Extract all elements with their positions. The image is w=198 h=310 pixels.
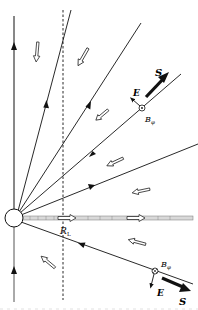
label-s-upper: S [155, 67, 162, 78]
label-e-lower: E [156, 288, 164, 298]
field-line-3 [20, 74, 181, 213]
hollow-arrow-c-icon [94, 108, 110, 123]
label-rl-sub: L [67, 231, 71, 237]
field-line-1-arrow-icon [43, 100, 49, 108]
sheet-hollow-arrow-1-icon [58, 215, 76, 222]
b-phi-upper-dot-icon [141, 107, 143, 109]
e-lower-arrow [151, 274, 154, 286]
magnetosphere-diagram: S E B φ R L B φ E S [0, 0, 198, 310]
hollow-arrow-f-icon [128, 237, 147, 247]
hollow-arrow-b-icon [75, 47, 91, 68]
label-b-upper: B [144, 115, 151, 124]
neutron-star [5, 209, 23, 227]
hollow-arrow-d-icon [106, 155, 125, 168]
field-line-4 [21, 144, 198, 215]
axis-arrow-upper-icon [11, 42, 17, 50]
label-rl: R [59, 226, 67, 236]
e-upper-arrow [132, 99, 140, 106]
label-b-lower-sub: φ [167, 264, 171, 271]
label-e-upper: E [132, 88, 140, 98]
field-line-4-arrow-icon [88, 184, 95, 190]
field-line-lower [21, 222, 193, 284]
hollow-arrow-e-icon [132, 186, 151, 196]
hollow-arrow-a-icon [33, 42, 41, 62]
axis-arrow-lower-icon [11, 266, 17, 274]
field-line-3-arrow-icon [89, 151, 96, 157]
sheet-hollow-arrow-2-icon [127, 215, 145, 222]
label-b-upper-sub: φ [151, 119, 155, 126]
hollow-arrow-g-icon [39, 254, 57, 270]
label-b-lower: B [160, 260, 167, 269]
label-s-lower: S [179, 296, 186, 307]
field-line-lower-arrow-icon [78, 243, 86, 249]
equatorial-current-sheet [22, 216, 193, 220]
